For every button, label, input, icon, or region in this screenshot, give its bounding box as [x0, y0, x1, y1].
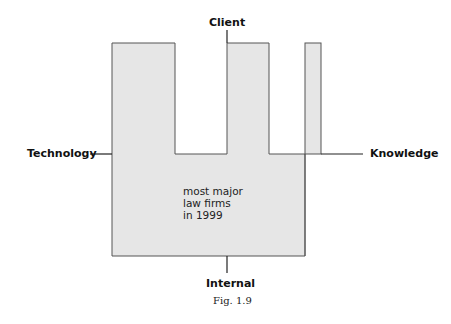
label-client: Client — [209, 17, 245, 28]
firm-profile-shape — [112, 43, 305, 256]
figure-caption: Fig. 1.9 — [213, 295, 252, 306]
diagram-canvas — [0, 0, 451, 324]
annotation-line-2: law firms — [183, 197, 243, 209]
label-technology: Technology — [27, 148, 97, 159]
label-knowledge: Knowledge — [370, 148, 439, 159]
knowledge-bar — [305, 43, 321, 154]
annotation-line-1: most major — [183, 185, 243, 197]
shape-annotation: most major law firms in 1999 — [183, 185, 243, 221]
annotation-line-3: in 1999 — [183, 209, 243, 221]
label-internal: Internal — [206, 278, 255, 289]
